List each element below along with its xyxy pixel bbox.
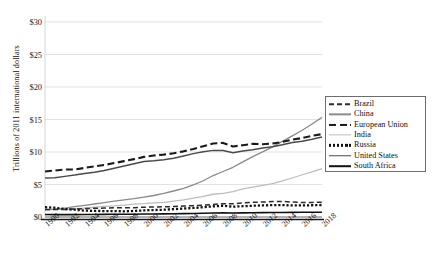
legend-item[interactable]: India [329, 130, 425, 140]
legend-swatch-icon [329, 140, 351, 150]
legend-label: Brazil [354, 99, 374, 109]
legend-item[interactable]: European Union [329, 120, 425, 130]
series-line-china [45, 117, 322, 210]
legend-item[interactable]: Brazil [329, 99, 425, 109]
series-line-european-union [45, 134, 322, 171]
legend-label: China [354, 109, 374, 119]
legend-swatch-icon [329, 109, 351, 119]
legend-label: India [354, 130, 371, 140]
legend-label: Russia [354, 140, 376, 150]
legend-item[interactable]: South Africa [329, 161, 425, 171]
legend-item[interactable]: United States [329, 150, 425, 160]
legend-item[interactable]: Russia [329, 140, 425, 150]
series-line-india [45, 169, 322, 210]
chart-container: Trillions of 2011 international dollars … [0, 0, 432, 260]
legend-item[interactable]: China [329, 109, 425, 119]
legend-swatch-icon [329, 130, 351, 140]
legend-label: European Union [354, 120, 408, 130]
legend-swatch-icon [329, 151, 351, 161]
legend-swatch-icon [329, 120, 351, 130]
legend-swatch-icon [329, 99, 351, 109]
series-line-south-africa [45, 212, 322, 214]
legend-label: United States [354, 151, 398, 161]
chart-legend: BrazilChinaEuropean UnionIndiaRussiaUnit… [325, 96, 426, 172]
legend-swatch-icon [329, 161, 351, 171]
legend-label: South Africa [354, 161, 396, 171]
